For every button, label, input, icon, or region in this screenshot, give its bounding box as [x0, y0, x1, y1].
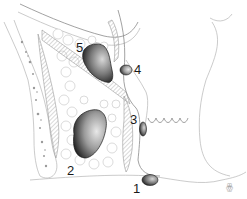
label-5: 5	[76, 40, 83, 55]
muscle-band-left	[38, 34, 59, 158]
muscle-band-upper-right	[108, 20, 119, 62]
lesion-2	[74, 110, 107, 158]
palate-edge	[210, 14, 232, 21]
mucosa-contour	[199, 22, 230, 176]
muscle-band-right	[123, 96, 133, 172]
lesion-5	[83, 44, 113, 82]
anatomical-illustration: 5 4 3 2 1 ꙮ	[0, 0, 247, 199]
artist-signature: ꙮ	[226, 183, 233, 192]
uvula-folds	[148, 118, 188, 123]
lesion-3	[140, 122, 147, 136]
lesion-4	[120, 65, 132, 75]
illustration-svg: 5 4 3 2 1 ꙮ	[0, 0, 247, 199]
label-4: 4	[134, 62, 141, 77]
label-1: 1	[133, 181, 140, 196]
lesion-1	[142, 175, 158, 186]
label-3: 3	[130, 112, 137, 127]
label-2: 2	[67, 163, 74, 178]
